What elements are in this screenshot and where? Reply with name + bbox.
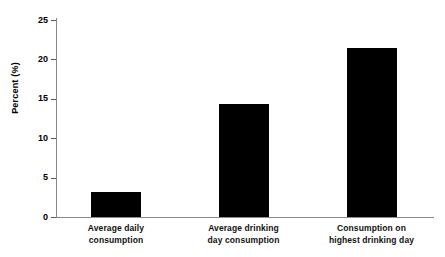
y-axis-tick-label: 5	[0, 173, 48, 182]
y-axis-tick-label-text: 10	[2, 134, 48, 143]
x-axis-category-label: Average dailyconsumption	[46, 223, 186, 246]
y-axis-tick-label: 20	[0, 55, 48, 64]
y-axis-tick-label: 25	[0, 16, 48, 25]
bar	[347, 48, 397, 217]
x-axis-category-label-line: Average daily	[46, 223, 186, 235]
y-axis-tick-label: 15	[0, 94, 48, 103]
y-axis-tick-label-text: 0	[2, 213, 48, 222]
y-axis-tick-label: 10	[0, 134, 48, 143]
x-axis-line	[56, 217, 434, 218]
y-axis-tick-label-text: 15	[2, 94, 48, 103]
plot-area	[57, 20, 434, 217]
bar-chart: Percent (%) 0510152025 Average dailycons…	[0, 0, 445, 257]
bar	[91, 192, 141, 217]
y-axis-tick-label-text: 25	[2, 16, 48, 25]
y-axis-tick-label: 0	[0, 213, 48, 222]
x-axis-category-label-line: consumption	[46, 235, 186, 247]
x-axis-category-label-line: Average drinking	[174, 223, 314, 235]
y-axis-tick-mark	[51, 178, 56, 179]
y-axis-tick-label-text: 5	[2, 173, 48, 182]
y-axis-tick-label-text: 20	[2, 55, 48, 64]
y-axis-tick-mark	[51, 99, 56, 100]
y-axis-tick-mark	[51, 217, 56, 218]
y-axis-tick-mark	[51, 59, 56, 60]
x-axis-category-label: Consumption onhighest drinking day	[302, 223, 442, 246]
y-axis-title: Percent (%)	[10, 38, 30, 138]
y-axis-tick-mark	[51, 138, 56, 139]
x-axis-category-label: Average drinkingday consumption	[174, 223, 314, 246]
x-axis-category-label-line: highest drinking day	[302, 235, 442, 247]
bar	[219, 104, 269, 217]
y-axis-tick-mark	[51, 20, 56, 21]
x-axis-category-label-line: Consumption on	[302, 223, 442, 235]
x-axis-category-label-line: day consumption	[174, 235, 314, 247]
